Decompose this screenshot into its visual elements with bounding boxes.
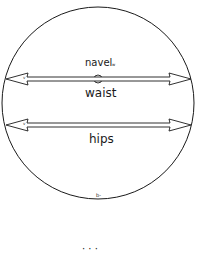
waist-arrow-mark: v: [23, 76, 25, 80]
navel-sub-label: w: [112, 63, 115, 67]
waist-label: waist: [85, 87, 116, 99]
bottom-mark-label: b-: [96, 193, 101, 198]
hips-label: hips: [89, 133, 114, 145]
hips-arrow-mark: v: [23, 122, 25, 126]
body-outline-circle: [2, 7, 194, 199]
hips-double-arrow-icon: [6, 119, 191, 131]
navel-label: navel: [85, 58, 112, 68]
caption-partial: · · ·: [82, 244, 98, 254]
